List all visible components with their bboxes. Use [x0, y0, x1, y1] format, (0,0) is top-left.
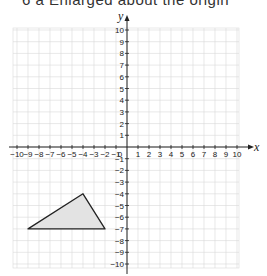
svg-text:8: 8 [120, 49, 125, 58]
svg-text:8: 8 [213, 150, 218, 159]
svg-text:−3: −3 [115, 178, 125, 187]
svg-text:−9: −9 [115, 248, 125, 257]
svg-text:3: 3 [120, 108, 125, 117]
svg-text:9: 9 [120, 38, 125, 47]
svg-text:−4: −4 [115, 190, 125, 199]
svg-text:10: 10 [115, 26, 124, 35]
x-axis-label: x [253, 140, 260, 154]
svg-text:6: 6 [191, 150, 196, 159]
axes [9, 15, 254, 274]
svg-text:−8: −8 [34, 150, 44, 159]
svg-text:−7: −7 [115, 225, 125, 234]
svg-text:−2: −2 [100, 150, 110, 159]
svg-text:−2: −2 [115, 166, 125, 175]
svg-text:5: 5 [180, 150, 185, 159]
svg-text:−4: −4 [78, 150, 88, 159]
svg-text:−10: −10 [10, 150, 24, 159]
svg-text:−1: −1 [115, 155, 125, 164]
svg-text:6: 6 [120, 73, 125, 82]
svg-text:−6: −6 [115, 213, 125, 222]
triangle-shape [28, 194, 105, 229]
svg-text:9: 9 [224, 150, 229, 159]
svg-text:−5: −5 [67, 150, 77, 159]
svg-text:4: 4 [120, 96, 125, 105]
svg-text:7: 7 [202, 150, 207, 159]
svg-text:2: 2 [147, 150, 152, 159]
svg-text:−3: −3 [89, 150, 99, 159]
coordinate-grid: −10−9−8−7−6−5−4−3−2−1012345678910−10−9−8… [0, 0, 267, 276]
svg-text:−6: −6 [56, 150, 66, 159]
grid-lines [13, 28, 239, 268]
y-axis-label: y [117, 9, 124, 23]
svg-text:−7: −7 [45, 150, 55, 159]
svg-text:−5: −5 [115, 202, 125, 211]
svg-text:10: 10 [233, 150, 242, 159]
svg-text:2: 2 [120, 120, 125, 129]
svg-text:−8: −8 [115, 237, 125, 246]
svg-text:−10: −10 [110, 260, 124, 269]
svg-text:7: 7 [120, 61, 125, 70]
svg-text:5: 5 [120, 85, 125, 94]
svg-text:1: 1 [120, 131, 125, 140]
svg-text:−9: −9 [23, 150, 33, 159]
svg-text:1: 1 [136, 150, 141, 159]
svg-text:4: 4 [169, 150, 174, 159]
svg-text:3: 3 [158, 150, 163, 159]
